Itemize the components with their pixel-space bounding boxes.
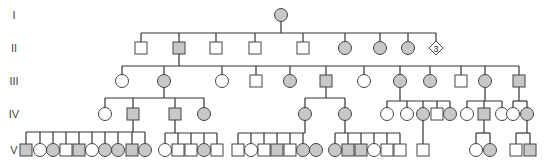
male-individual-V-9 xyxy=(126,144,138,156)
male-individual-V-32 xyxy=(510,144,522,156)
male-individual-V-29 xyxy=(417,144,429,156)
square-icon xyxy=(73,144,85,156)
female-individual-III-5 xyxy=(284,75,297,88)
square-icon xyxy=(185,144,197,156)
square-icon xyxy=(258,144,270,156)
square-icon xyxy=(127,108,139,120)
generation-label: I xyxy=(12,9,15,21)
square-icon xyxy=(169,108,181,120)
female-individual-III-8 xyxy=(394,75,407,88)
male-individual-V-19 xyxy=(271,144,283,156)
female-individual-IV-12 xyxy=(461,108,474,121)
square-icon xyxy=(320,75,332,87)
female-individual-III-3 xyxy=(216,75,229,88)
circle-icon xyxy=(417,108,430,121)
female-individual-V-31 xyxy=(484,144,497,157)
circle-icon xyxy=(329,144,342,157)
square-icon xyxy=(232,144,244,156)
female-individual-III-1 xyxy=(116,75,129,88)
pedigree-chart: IIIIIIIVV 3 xyxy=(0,0,545,165)
square-icon xyxy=(210,42,222,54)
square-icon xyxy=(135,42,147,54)
male-individual-V-20 xyxy=(284,144,296,156)
square-icon xyxy=(355,144,367,156)
square-icon xyxy=(513,75,525,87)
male-individual-V-24 xyxy=(342,144,354,156)
female-individual-IV-9 xyxy=(417,108,430,121)
female-individual-IV-7 xyxy=(381,108,394,121)
circle-icon xyxy=(470,144,483,157)
square-icon xyxy=(20,144,32,156)
circle-icon xyxy=(116,75,129,88)
female-individual-V-6 xyxy=(86,144,99,157)
square-icon xyxy=(60,144,72,156)
male-individual-V-4 xyxy=(60,144,72,156)
circle-icon xyxy=(198,108,211,121)
female-individual-III-9 xyxy=(424,75,437,88)
square-icon xyxy=(510,144,522,156)
circle-icon xyxy=(99,108,112,121)
square-icon xyxy=(271,144,283,156)
square-icon xyxy=(249,42,261,54)
female-individual-V-23 xyxy=(329,144,342,157)
female-individual-III-2 xyxy=(158,75,171,88)
generation-label: II xyxy=(11,42,17,54)
male-individual-III-6 xyxy=(320,75,332,87)
female-individual-IV-15 xyxy=(507,108,520,121)
circle-icon xyxy=(339,42,352,55)
circle-icon xyxy=(402,42,415,55)
circle-icon xyxy=(284,75,297,88)
female-individual-IV-16 xyxy=(521,108,534,121)
circle-icon xyxy=(424,75,437,88)
female-individual-III-7 xyxy=(358,75,371,88)
circle-icon xyxy=(521,108,534,121)
individuals: 3 xyxy=(20,9,536,157)
square-icon xyxy=(250,75,262,87)
circle-icon xyxy=(34,144,47,157)
female-individual-V-2 xyxy=(34,144,47,157)
male-individual-V-16 xyxy=(232,144,244,156)
female-individual-IV-6 xyxy=(339,108,352,121)
male-individual-II-1 xyxy=(135,42,147,54)
generation-label: III xyxy=(9,75,18,87)
male-individual-IV-13 xyxy=(478,108,490,120)
circle-icon xyxy=(139,144,152,157)
female-individual-IV-5 xyxy=(299,108,312,121)
male-individual-III-12 xyxy=(513,75,525,87)
square-icon xyxy=(284,144,296,156)
male-individual-IV-2 xyxy=(127,108,139,120)
square-icon xyxy=(381,144,393,156)
circle-icon xyxy=(299,108,312,121)
circle-icon xyxy=(374,42,387,55)
square-icon xyxy=(342,144,354,156)
female-individual-V-3 xyxy=(47,144,60,157)
generation-label: V xyxy=(10,144,18,156)
female-individual-V-8 xyxy=(112,144,125,157)
female-individual-V-30 xyxy=(470,144,483,157)
male-individual-V-27 xyxy=(381,144,393,156)
circle-icon xyxy=(358,75,371,88)
circle-icon xyxy=(507,108,520,121)
female-individual-V-22 xyxy=(310,144,323,157)
square-icon xyxy=(173,42,185,54)
male-individual-V-18 xyxy=(258,144,270,156)
circle-icon xyxy=(394,75,407,88)
circle-icon xyxy=(479,75,492,88)
female-individual-II-6 xyxy=(339,42,352,55)
circle-icon xyxy=(461,108,474,121)
male-individual-V-33 xyxy=(524,144,536,156)
circle-icon xyxy=(216,75,229,88)
male-individual-II-3 xyxy=(210,42,222,54)
male-individual-V-28 xyxy=(394,144,406,156)
generation-labels: IIIIIIIVV xyxy=(9,9,20,156)
female-individual-IV-4 xyxy=(198,108,211,121)
male-individual-IV-3 xyxy=(169,108,181,120)
square-icon xyxy=(172,144,184,156)
male-individual-II-4 xyxy=(249,42,261,54)
female-individual-IV-11 xyxy=(444,108,457,121)
male-individual-V-13 xyxy=(185,144,197,156)
female-individual-V-17 xyxy=(245,144,258,157)
circle-icon xyxy=(47,144,60,157)
female-individual-II-8 xyxy=(402,42,415,55)
male-individual-V-25 xyxy=(355,144,367,156)
